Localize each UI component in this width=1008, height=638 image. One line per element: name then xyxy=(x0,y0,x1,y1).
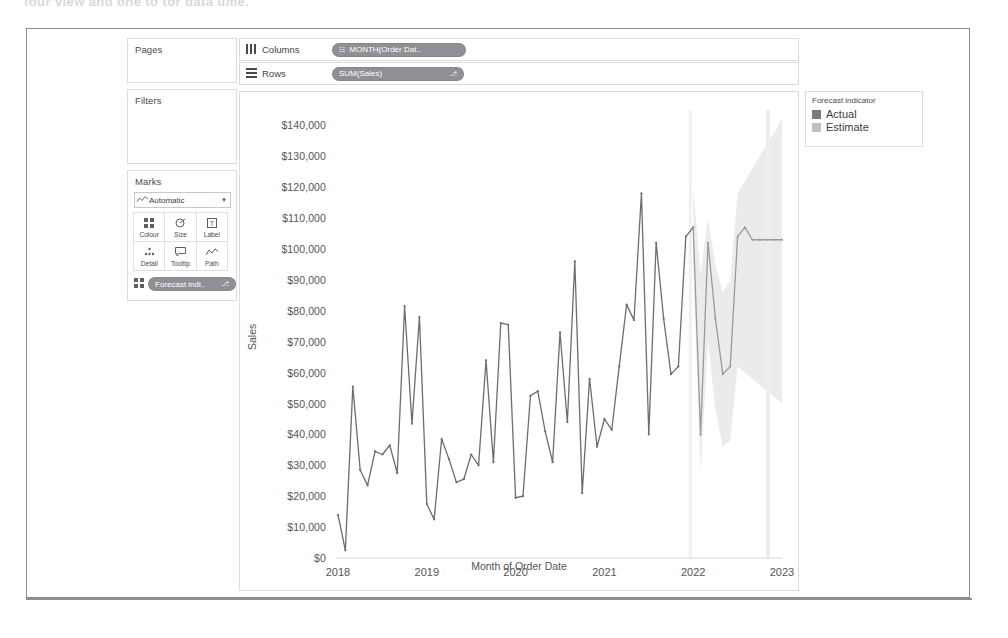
columns-pill-label: MONTH(Order Dat.. xyxy=(349,45,459,54)
filters-shelf[interactable]: Filters xyxy=(127,89,237,164)
marks-label-label: Label xyxy=(204,231,220,238)
legend-swatch xyxy=(812,123,821,132)
columns-shelf[interactable]: Columns ☷ MONTH(Order Dat.. xyxy=(239,38,799,61)
legend-item-actual[interactable]: Actual xyxy=(806,108,922,121)
marks-path-button[interactable]: Path xyxy=(196,241,228,271)
colour-icon xyxy=(134,278,144,290)
mark-buttons-row-2: Detail Tooltip Path xyxy=(134,242,231,271)
columns-pill-month-order-date[interactable]: ☷ MONTH(Order Dat.. xyxy=(332,43,466,57)
legend-item-estimate[interactable]: Estimate xyxy=(806,121,922,134)
tooltip-icon xyxy=(175,246,186,259)
marks-label-button[interactable]: T Label xyxy=(196,212,228,242)
date-part-icon: ☷ xyxy=(339,46,345,54)
rows-pill-sum-sales[interactable]: SUM(Sales) ⎇ xyxy=(332,67,464,81)
forecast-indicator-pill[interactable]: Forecast indi.. ⎇ xyxy=(148,277,236,291)
legend-swatch xyxy=(812,110,821,119)
columns-label: Columns xyxy=(262,44,324,55)
colour-icon xyxy=(144,217,154,230)
sales-forecast-line-chart xyxy=(240,92,798,590)
rows-shelf[interactable]: Rows SUM(Sales) ⎇ xyxy=(239,62,799,85)
rows-label: Rows xyxy=(262,68,324,79)
marks-colour-encoding-row[interactable]: Forecast indi.. ⎇ xyxy=(134,277,236,291)
marks-detail-button[interactable]: Detail xyxy=(133,241,165,271)
chevron-down-icon[interactable]: ▼ xyxy=(218,197,230,203)
rows-pill-label: SUM(Sales) xyxy=(339,69,444,78)
pages-shelf[interactable]: Pages xyxy=(127,38,237,83)
filters-label: Filters xyxy=(128,90,236,106)
detail-icon xyxy=(144,246,155,259)
forecast-indicator-pill-label: Forecast indi.. xyxy=(155,280,216,289)
marks-colour-label: Colour xyxy=(139,231,158,238)
legend-label: Estimate xyxy=(826,121,869,133)
line-chart-icon xyxy=(135,195,149,205)
mark-property-buttons: Colour Size T Lab xyxy=(134,213,231,271)
marks-path-label: Path xyxy=(205,260,219,267)
marks-tooltip-label: Tooltip xyxy=(171,260,190,267)
size-icon xyxy=(175,217,186,230)
marks-size-label: Size xyxy=(174,231,187,238)
pill-menu-icon[interactable]: ⎇ xyxy=(221,280,229,288)
mark-buttons-row-1: Colour Size T Lab xyxy=(134,213,231,242)
marks-card[interactable]: Marks Automatic ▼ xyxy=(127,170,237,301)
legend-label: Actual xyxy=(826,108,857,120)
columns-icon xyxy=(240,44,262,56)
marks-detail-label: Detail xyxy=(141,260,158,267)
forecast-indicator-legend[interactable]: Forecast indicator Actual Estimate xyxy=(805,91,923,147)
cut-off-header-text: four view and one to tor data ume. xyxy=(24,0,324,8)
marks-tooltip-button[interactable]: Tooltip xyxy=(164,241,196,271)
mark-type-label: Automatic xyxy=(149,196,218,205)
path-icon xyxy=(206,246,218,259)
pill-menu-icon[interactable]: ⎇ xyxy=(449,70,457,78)
pages-label: Pages xyxy=(128,39,236,55)
marks-colour-button[interactable]: Colour xyxy=(133,212,165,242)
legend-title: Forecast indicator xyxy=(806,92,922,108)
svg-text:T: T xyxy=(210,220,215,227)
rows-icon xyxy=(240,68,262,80)
screenshot-root: four view and one to tor data ume. Pages… xyxy=(0,0,1008,638)
mark-type-selector[interactable]: Automatic ▼ xyxy=(134,192,231,208)
marks-size-button[interactable]: Size xyxy=(164,212,196,242)
chart-view-pane[interactable]: $0$10,000$20,000$30,000$40,000$50,000$60… xyxy=(239,91,799,591)
tableau-worksheet-frame: Pages Filters Marks Automatic ▼ xyxy=(26,28,970,598)
label-icon: T xyxy=(207,217,217,230)
marks-label: Marks xyxy=(128,171,236,187)
